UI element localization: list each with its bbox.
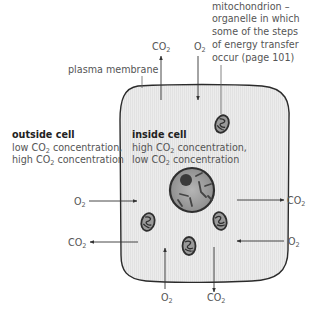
outside-cell-heading: outside cell xyxy=(12,129,75,140)
outside-cell-text: outside cell low CO2 concentration, high… xyxy=(12,129,124,167)
mitochondrion-4 xyxy=(183,237,196,255)
mitochondrion-label: mitochondrion – organelle in which some … xyxy=(212,1,300,63)
svg-text:O2: O2 xyxy=(161,292,173,305)
svg-text:organelle in which: organelle in which xyxy=(212,13,300,24)
svg-text:some of the steps: some of the steps xyxy=(212,26,298,37)
svg-text:mitochondrion –: mitochondrion – xyxy=(212,1,290,12)
plasma-membrane-label: plasma membrane xyxy=(68,64,158,75)
nucleolus xyxy=(180,174,192,186)
svg-text:occur (page 101): occur (page 101) xyxy=(212,52,294,63)
cell-gas-exchange-diagram: plasma membrane mitochondrion – organell… xyxy=(0,0,312,314)
svg-text:CO2: CO2 xyxy=(207,292,225,305)
svg-text:CO2: CO2 xyxy=(68,237,86,250)
inside-cell-heading: inside cell xyxy=(132,129,187,140)
outside-cell-line-2: high CO2 concentration xyxy=(12,154,124,167)
nucleus xyxy=(170,168,214,212)
svg-text:O2: O2 xyxy=(74,196,86,209)
svg-text:O2: O2 xyxy=(288,236,300,249)
svg-text:CO2: CO2 xyxy=(287,195,305,208)
svg-text:CO2: CO2 xyxy=(152,41,170,54)
svg-text:O2: O2 xyxy=(194,41,206,54)
svg-text:of energy transfer: of energy transfer xyxy=(212,39,299,50)
